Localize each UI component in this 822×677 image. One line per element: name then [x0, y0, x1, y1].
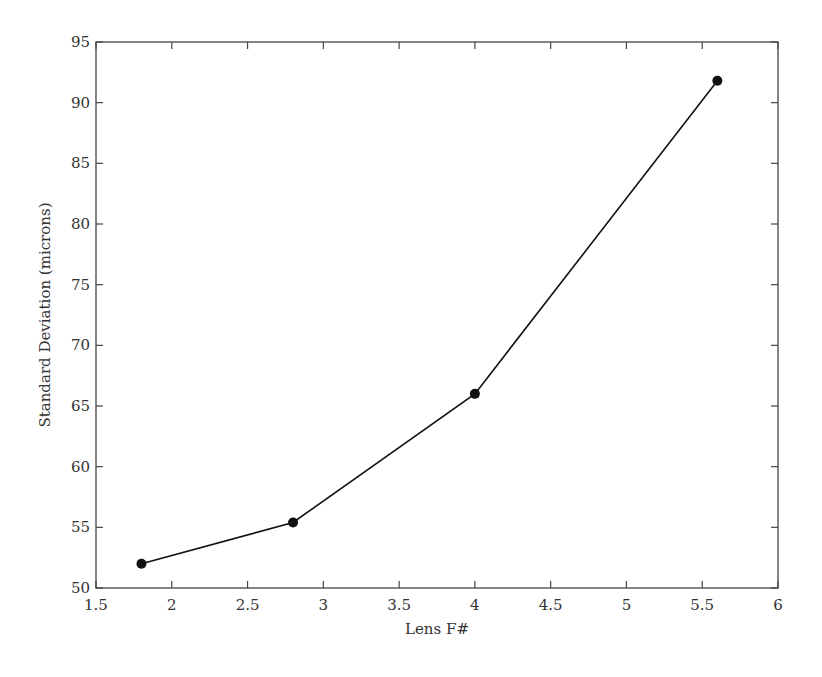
- x-axis-label: Lens F#: [405, 620, 469, 638]
- axis-ticks: [96, 42, 778, 588]
- y-axis-label: Standard Deviation (microns): [36, 202, 54, 427]
- y-tick-label: 65: [71, 397, 90, 415]
- y-tick-labels: 50556065707580859095: [71, 33, 90, 597]
- x-tick-label: 4.5: [539, 596, 563, 614]
- y-tick-label: 70: [71, 336, 90, 354]
- data-point-marker: [470, 389, 480, 399]
- x-tick-label: 5.5: [690, 596, 714, 614]
- plot-frame: [96, 42, 778, 588]
- x-tick-label: 2.5: [236, 596, 260, 614]
- y-tick-label: 60: [71, 458, 90, 476]
- x-tick-label: 2: [167, 596, 177, 614]
- x-tick-label: 5: [622, 596, 632, 614]
- y-tick-label: 95: [71, 33, 90, 51]
- y-tick-label: 85: [71, 154, 90, 172]
- data-point-marker: [712, 76, 722, 86]
- x-tick-labels: 1.522.533.544.555.56: [84, 596, 783, 614]
- x-tick-label: 3: [319, 596, 329, 614]
- y-tick-label: 80: [71, 215, 90, 233]
- y-tick-label: 75: [71, 276, 90, 294]
- line-chart: 1.522.533.544.555.56 5055606570758085909…: [0, 0, 822, 677]
- x-tick-label: 3.5: [387, 596, 411, 614]
- x-tick-label: 1.5: [84, 596, 108, 614]
- x-tick-label: 6: [773, 596, 783, 614]
- y-tick-label: 90: [71, 94, 90, 112]
- data-markers: [136, 76, 722, 569]
- y-tick-label: 50: [71, 579, 90, 597]
- data-point-marker: [136, 559, 146, 569]
- y-tick-label: 55: [71, 518, 90, 536]
- data-point-marker: [288, 517, 298, 527]
- x-tick-label: 4: [470, 596, 480, 614]
- data-line: [142, 81, 718, 564]
